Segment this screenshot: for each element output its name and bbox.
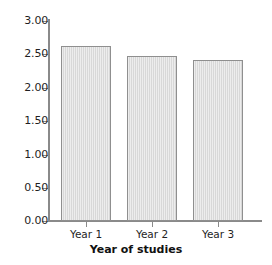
x-tick-label-year-2: Year 2 bbox=[122, 228, 182, 240]
y-tick-label-0-00: 0.00 bbox=[12, 215, 48, 226]
y-axis-line bbox=[48, 19, 50, 222]
x-axis-title: Year of studies bbox=[0, 243, 272, 256]
x-tick-label-year-1: Year 1 bbox=[56, 228, 116, 240]
plot-area: 3.00 2.50 2.00 1.50 1.00 0.50 0.00 bbox=[0, 0, 272, 265]
y-tick-label-1-00: 1.00 bbox=[12, 149, 48, 160]
y-tick-row-3-00: 3.00 bbox=[0, 15, 48, 26]
y-tick-label-2-00: 2.00 bbox=[12, 82, 48, 93]
bar-year-2[interactable] bbox=[127, 56, 177, 221]
x-tick-mark-2 bbox=[152, 222, 153, 227]
y-tick-row-2-00: 2.00 bbox=[0, 82, 48, 93]
bar-year-1[interactable] bbox=[61, 46, 111, 221]
x-tick-mark-3 bbox=[218, 222, 219, 227]
y-tick-label-1-50: 1.50 bbox=[12, 115, 48, 126]
y-tick-label-0-50: 0.50 bbox=[12, 182, 48, 193]
x-tick-label-year-3: Year 3 bbox=[188, 228, 248, 240]
y-tick-row-1-50: 1.50 bbox=[0, 115, 48, 126]
y-tick-row-0-50: 0.50 bbox=[0, 182, 48, 193]
bar-year-3[interactable] bbox=[193, 60, 243, 221]
y-tick-label-3-00: 3.00 bbox=[12, 15, 48, 26]
y-tick-label-2-50: 2.50 bbox=[12, 48, 48, 59]
y-tick-row-1-00: 1.00 bbox=[0, 149, 48, 160]
x-tick-mark-1 bbox=[86, 222, 87, 227]
y-tick-row-0-00: 0.00 bbox=[0, 215, 48, 226]
y-tick-row-2-50: 2.50 bbox=[0, 48, 48, 59]
bar-chart-figure: 3.00 2.50 2.00 1.50 1.00 0.50 0.00 bbox=[0, 0, 272, 265]
